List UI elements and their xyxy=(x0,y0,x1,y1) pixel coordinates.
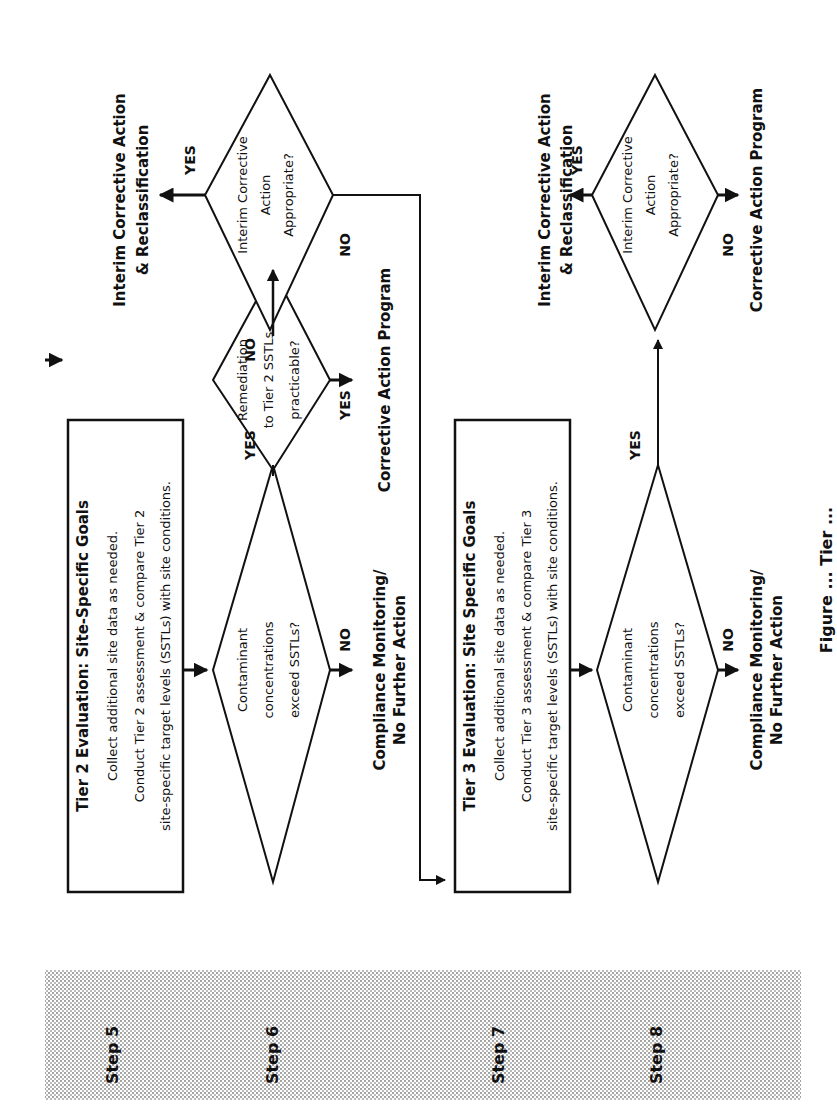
no-label-exceed8: NO xyxy=(720,628,736,652)
no-label-remediation: NO xyxy=(242,338,258,362)
no-label-exceed6: NO xyxy=(337,628,353,652)
step-5-label: Step 5 xyxy=(103,1026,122,1084)
outcome-compliance8-l1: Compliance Monitoring/ xyxy=(748,569,766,771)
tier3-line3: site-specific target levels (SSTLs) with… xyxy=(545,481,560,831)
yes-label-exceed6: YES xyxy=(242,430,258,461)
tier3-line2: Conduct Tier 3 assessment & compare Tier… xyxy=(519,510,534,803)
outcome-compliance8-l2: No Further Action xyxy=(768,595,786,745)
tier2-line2: Conduct Tier 2 assessment & compare Tier… xyxy=(132,510,147,803)
outcome-cap8: Corrective Action Program xyxy=(748,88,766,312)
tier2-title: Tier 2 Evaluation: Site-Specific Goals xyxy=(74,500,92,812)
tier2-line3: site-specific target levels (SSTLs) with… xyxy=(158,481,173,831)
no-label-interim8: NO xyxy=(720,233,736,257)
step-band xyxy=(45,970,801,1100)
decision-exceed-step6: Contaminant concentrations exceed SSTLs? xyxy=(213,465,330,882)
svg-text:exceed SSTLs?: exceed SSTLs? xyxy=(287,622,302,718)
yes-label-remediation: YES xyxy=(337,390,353,421)
decision-interim-step6: Interim Corrective Action Appropriate? xyxy=(205,75,333,330)
svg-text:Interim Corrective: Interim Corrective xyxy=(235,136,250,254)
yes-label-interim6: YES xyxy=(182,145,198,176)
svg-text:Contaminant: Contaminant xyxy=(620,628,635,712)
step-6-label: Step 6 xyxy=(263,1026,282,1084)
figure-caption: Figure ... Tier ... xyxy=(817,507,836,653)
outcome-interim8-l2: & Reclassification xyxy=(558,125,576,276)
step-7-label: Step 7 xyxy=(489,1026,508,1084)
tier2-box: Tier 2 Evaluation: Site-Specific Goals C… xyxy=(68,420,183,892)
yes-label-exceed8: YES xyxy=(627,430,643,461)
svg-text:Contaminant: Contaminant xyxy=(235,628,250,712)
decision-exceed-step8: Contaminant concentrations exceed SSTLs? xyxy=(597,465,718,882)
tier3-box: Tier 3 Evaluation: Site Specific Goals C… xyxy=(455,420,570,892)
svg-text:exceed SSTLs?: exceed SSTLs? xyxy=(672,622,687,718)
outcome-interim6-l1: Interim Corrective Action xyxy=(111,93,129,306)
outcome-interim8-l1: Interim Corrective Action xyxy=(536,93,554,306)
tier3-line1: Collect additional site data as needed. xyxy=(492,531,507,781)
svg-text:Action: Action xyxy=(258,175,273,216)
outcome-compliance6-l2: No Further Action xyxy=(391,595,409,745)
decision-interim-step8: Interim Corrective Action Appropriate? xyxy=(592,75,718,330)
svg-text:Interim Corrective: Interim Corrective xyxy=(620,136,635,254)
rbca-flowchart: Step 5 Step 6 Step 7 Step 8 Tier 2 Evalu… xyxy=(0,0,837,1107)
outcome-compliance6-l1: Compliance Monitoring/ xyxy=(371,569,389,771)
svg-text:concentrations: concentrations xyxy=(646,621,661,718)
no-label-interim6: NO xyxy=(337,233,353,257)
svg-text:concentrations: concentrations xyxy=(261,621,276,718)
tier3-title: Tier 3 Evaluation: Site Specific Goals xyxy=(461,501,479,812)
outcome-interim6-l2: & Reclassification xyxy=(134,125,152,276)
svg-text:Appropriate?: Appropriate? xyxy=(666,153,681,237)
svg-text:Action: Action xyxy=(643,175,658,216)
tier2-line1: Collect additional site data as needed. xyxy=(105,531,120,781)
step-8-label: Step 8 xyxy=(647,1026,666,1084)
outcome-cap6: Corrective Action Program xyxy=(376,268,394,492)
svg-text:Appropriate?: Appropriate? xyxy=(281,153,296,237)
svg-text:practicable?: practicable? xyxy=(287,340,302,419)
svg-text:to Tier 2 SSTLs: to Tier 2 SSTLs xyxy=(261,331,276,428)
